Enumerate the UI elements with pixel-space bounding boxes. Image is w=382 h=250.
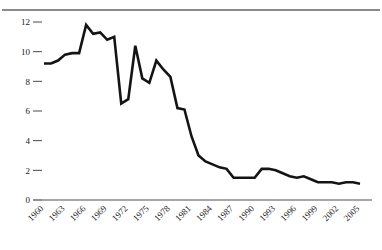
y-axis-tick-label: 0 <box>26 195 31 205</box>
x-axis-tick-label: 1975 <box>131 203 151 223</box>
x-axis-tick-label: 2005 <box>342 203 362 223</box>
y-axis: 024681012 <box>21 17 42 205</box>
y-axis-tick-label: 2 <box>26 166 31 176</box>
chart-container: 024681012 196019631966196919721975197819… <box>0 0 382 250</box>
y-axis-tick-label: 6 <box>26 106 31 116</box>
x-axis-tick-label: 1978 <box>152 203 172 223</box>
x-axis-tick-label: 1996 <box>278 203 298 223</box>
x-axis-tick-label: 1981 <box>173 203 193 223</box>
series-1-polyline <box>44 25 360 184</box>
x-axis-tick-label: 1963 <box>47 203 67 223</box>
x-axis-tick-label: 1966 <box>68 203 88 223</box>
y-axis-tick-label: 8 <box>26 77 31 87</box>
y-axis-tick-label: 12 <box>21 17 30 27</box>
x-axis-tick-label: 2002 <box>321 203 341 223</box>
x-axis-tick-label: 1969 <box>89 203 109 223</box>
y-axis-tick-label: 4 <box>26 136 31 146</box>
x-axis-tick-label: 1972 <box>110 203 130 223</box>
data-series-line <box>44 25 360 184</box>
x-axis-tick-label: 1987 <box>215 203 235 223</box>
y-axis-tick-label: 10 <box>21 47 31 57</box>
x-axis-tick-label: 1990 <box>236 203 256 223</box>
line-chart-plot: 024681012 196019631966196919721975197819… <box>0 0 382 250</box>
x-axis-tick-label: 1993 <box>257 203 277 223</box>
x-axis-tick-label: 1999 <box>299 203 319 223</box>
x-axis-tick-label: 1960 <box>26 203 46 223</box>
x-axis: 1960196319661969197219751978198119841987… <box>26 203 362 223</box>
x-axis-tick-label: 1984 <box>194 203 214 223</box>
